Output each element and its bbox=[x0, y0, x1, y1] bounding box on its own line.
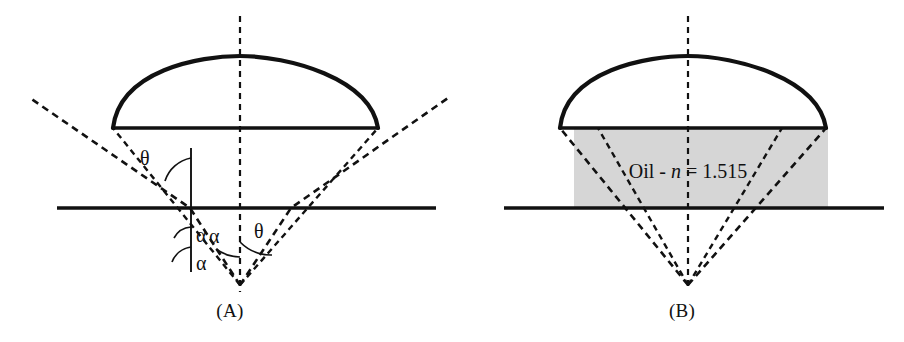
angle-arc-alpha-upper bbox=[174, 227, 191, 238]
angle-label-alpha-lower: α bbox=[196, 252, 207, 274]
oil-label-value: 1.515 bbox=[702, 160, 747, 182]
angle-label-alpha-apex: α bbox=[209, 225, 220, 247]
ray-refracted-right bbox=[240, 98, 448, 285]
oil-label-symbol: n bbox=[671, 160, 681, 182]
lens-dome-outline bbox=[113, 56, 378, 128]
oil-label-prefix: Oil - bbox=[629, 160, 671, 182]
panel-a-caption: (A) bbox=[170, 300, 290, 322]
angle-label-alpha-upper: α bbox=[196, 224, 207, 246]
lens-dome-outline bbox=[560, 56, 826, 128]
oil-label-equals: = bbox=[681, 160, 702, 182]
angle-arc-alpha-lower bbox=[172, 247, 191, 262]
ray-refracted-left bbox=[30, 98, 240, 285]
angle-label-theta-upper: θ bbox=[140, 147, 150, 169]
panel-b-oil-immersion-objective: Oil - n = 1.515 bbox=[452, 0, 904, 342]
panel-a-dry-objective: θ α α α θ bbox=[0, 0, 452, 342]
figure-root: θ α α α θ Oil - n = 1.515 bbox=[0, 0, 904, 342]
angle-label-theta-apex: θ bbox=[254, 220, 264, 242]
angle-arc-theta-upper bbox=[165, 158, 191, 181]
panel-b-caption: (B) bbox=[622, 300, 742, 322]
oil-index-label: Oil - n = 1.515 bbox=[629, 160, 748, 182]
